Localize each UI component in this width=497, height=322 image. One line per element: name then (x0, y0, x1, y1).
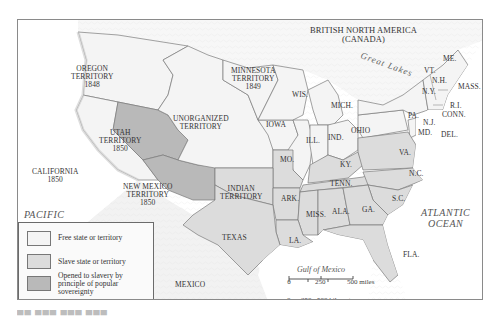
label-va: VA. (399, 149, 411, 157)
label-iowa: IOWA (266, 121, 286, 129)
label-british-north-america: BRITISH NORTH AMERICA (CANADA) (310, 26, 417, 44)
legend-swatch-free (27, 231, 51, 246)
label-unorganized-territory: UNORGANIZED TERRITORY (173, 115, 229, 131)
legend-label-slave: Slave state or territory (58, 258, 126, 266)
map-caption-cropped: ▀▀ ▀▀▀ ▀▀▀ ▀▀▀ (17, 310, 137, 318)
label-mexico: MEXICO (175, 281, 205, 289)
label-nh: N.H. (432, 77, 447, 85)
label-ill: ILL. (306, 137, 320, 145)
label-ark: ARK. (281, 195, 299, 203)
label-me: ME. (443, 55, 456, 63)
label-new-mexico-territory: NEW MEXICO TERRITORY 1850 (123, 183, 172, 207)
label-vt: VT. (424, 67, 436, 75)
label-ga: GA. (362, 206, 375, 214)
map-legend: Free state or territory Slave state or t… (18, 222, 154, 300)
label-wis: WIS. (292, 91, 308, 99)
label-california: CALIFORNIA 1850 (32, 168, 78, 184)
label-md: MD. (418, 129, 432, 137)
label-ky: KY. (340, 161, 352, 169)
scale-miles-0: 0 (287, 278, 291, 286)
label-ind: IND. (328, 134, 344, 142)
scale-km-250: 250 (301, 296, 312, 300)
label-del: DEL. (441, 131, 458, 139)
label-tenn: TENN. (330, 180, 352, 188)
label-utah-territory: UTAH TERRITORY 1850 (99, 129, 141, 153)
label-mo: MO. (280, 156, 294, 164)
legend-item-free: Free state or territory (27, 231, 122, 246)
label-conn: CONN. (442, 111, 466, 119)
label-ri: R.I. (450, 102, 462, 110)
scale-km-500: 500 kilometers (317, 296, 359, 300)
scale-km-0: 0 (287, 296, 291, 300)
label-pa: PA. (408, 112, 419, 120)
label-minnesota-territory: MINNESOTA TERRITORY 1849 (231, 67, 275, 91)
legend-swatch-slave (27, 254, 51, 269)
label-oregon-territory: OREGON TERRITORY 1848 (71, 65, 113, 89)
state-arkansas (273, 188, 300, 220)
label-miss: MISS. (306, 211, 326, 219)
legend-label-popular-sovereignty: Opened to slavery by principle of popula… (58, 272, 123, 296)
label-atlantic-ocean: ATLANTIC OCEAN (421, 207, 470, 229)
label-fla: FLA. (403, 251, 419, 259)
scale-miles-250: 250 (315, 278, 326, 286)
label-indian-territory: INDIAN TERRITORY (220, 185, 262, 201)
map-frame: BRITISH NORTH AMERICA (CANADA) Great Lak… (17, 19, 483, 300)
label-sc: S.C. (392, 195, 405, 203)
label-gulf-of-mexico: Gulf of Mexico (297, 265, 345, 274)
label-ny: N.Y. (422, 88, 436, 96)
label-texas: TEXAS (222, 234, 247, 242)
legend-label-free: Free state or territory (58, 234, 122, 242)
legend-swatch-popular-sovereignty (27, 276, 51, 291)
scale-miles-500: 500 miles (347, 278, 374, 286)
legend-item-slave: Slave state or territory (27, 254, 126, 269)
label-mass: MASS. (458, 83, 481, 91)
label-nc: N.C. (409, 170, 424, 178)
legend-item-popular-sovereignty: Opened to slavery by principle of popula… (27, 272, 123, 296)
label-ala: ALA. (332, 208, 350, 216)
label-la: LA. (289, 237, 301, 245)
label-mich: MICH. (331, 102, 353, 110)
label-nj: N.J. (423, 119, 436, 127)
label-ohio: OHIO (351, 127, 370, 135)
